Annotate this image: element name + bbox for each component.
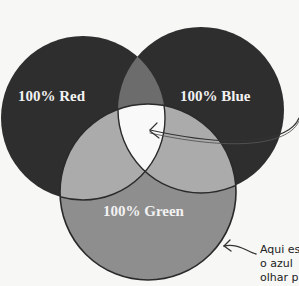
annotation-line-2: o azul — [260, 257, 293, 270]
label-red: 100% Red — [18, 88, 86, 104]
venn-diagram: 100% Red 100% Blue 100% Green Aqui es o … — [0, 0, 299, 286]
label-green: 100% Green — [103, 203, 185, 219]
annotation-line-3: olhar p — [260, 271, 299, 284]
annotation-line-1: Aqui es — [260, 243, 299, 256]
label-blue: 100% Blue — [180, 88, 251, 104]
annotation-arrow-icon — [224, 240, 256, 254]
